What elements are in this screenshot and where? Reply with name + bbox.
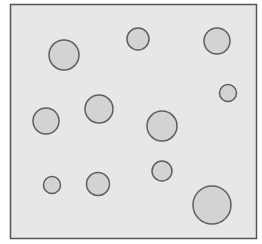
circle-7	[147, 111, 177, 141]
circle-6	[85, 95, 113, 123]
circle-8	[44, 177, 61, 194]
circle-9	[87, 173, 110, 196]
circle-10	[152, 161, 172, 181]
circle-5	[33, 108, 59, 134]
circle-4	[220, 85, 237, 102]
circles-diagram	[0, 0, 262, 244]
circle-1	[49, 40, 79, 70]
circle-2	[127, 28, 149, 50]
circle-11	[193, 186, 231, 224]
diagram-canvas	[0, 0, 262, 244]
circle-3	[204, 28, 230, 54]
